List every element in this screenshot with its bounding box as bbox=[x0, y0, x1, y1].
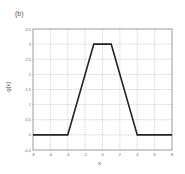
x-tick-label: -2 bbox=[83, 152, 87, 157]
y-tick-label: 2.5 bbox=[25, 57, 31, 62]
x-tick-label: -8 bbox=[31, 152, 35, 157]
x-tick-label: 0 bbox=[101, 152, 104, 157]
x-tick-label: 4 bbox=[136, 152, 139, 157]
line-chart: -8-6-4-202468-0.500.511.522.533.5 bbox=[0, 0, 185, 174]
y-tick-label: 1 bbox=[29, 102, 32, 107]
y-tick-label: 3 bbox=[29, 42, 32, 47]
y-tick-label: -0.5 bbox=[24, 148, 32, 153]
x-tick-label: 2 bbox=[119, 152, 122, 157]
y-tick-label: 1.5 bbox=[25, 87, 31, 92]
y-tick-label: 0.5 bbox=[25, 117, 31, 122]
x-tick-label: -4 bbox=[66, 152, 70, 157]
y-tick-label: 0 bbox=[29, 132, 32, 137]
y-tick-label: 3.5 bbox=[25, 27, 31, 32]
y-tick-label: 2 bbox=[29, 72, 32, 77]
x-tick-label: 8 bbox=[171, 152, 174, 157]
x-tick-label: -6 bbox=[49, 152, 53, 157]
x-tick-label: 6 bbox=[154, 152, 157, 157]
